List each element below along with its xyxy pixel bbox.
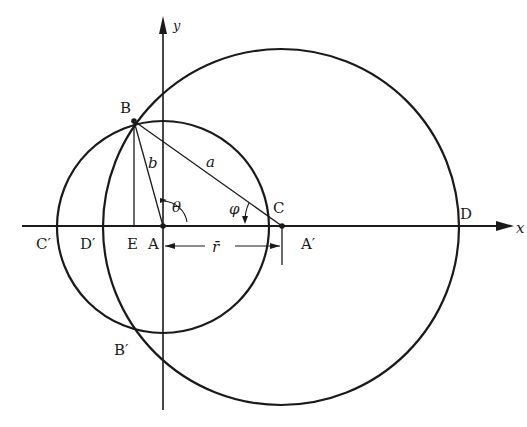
point-C-prime-label: C′ xyxy=(36,235,51,253)
point-D-label: D xyxy=(460,205,472,223)
point-B-prime-label: B′ xyxy=(114,341,129,359)
segment-a-label: a xyxy=(206,153,215,171)
segment-r-label: r̄ xyxy=(212,238,220,256)
point-E-label: E xyxy=(127,235,138,253)
segment-a xyxy=(134,121,282,226)
angle-phi-label: φ xyxy=(229,200,240,218)
point-A-label: A xyxy=(147,235,159,253)
segment-b-label: b xyxy=(148,154,158,172)
angle-phi-arrow-icon xyxy=(242,216,248,224)
angle-theta-label: θ xyxy=(172,198,181,216)
y-axis xyxy=(159,16,167,410)
segment-b xyxy=(134,121,163,226)
y-axis-arrow-icon xyxy=(159,16,167,34)
x-axis-arrow-icon xyxy=(496,221,514,231)
diagram-canvas: x y r̄ θ φ B b a C D C′ D′ E A A′ B′ xyxy=(0,0,527,427)
point-A-prime-label: A′ xyxy=(300,235,316,253)
r-dimension xyxy=(165,243,280,249)
point-B xyxy=(131,118,137,124)
point-D-prime-label: D′ xyxy=(80,235,96,253)
point-C-label: C xyxy=(273,199,284,217)
point-A xyxy=(160,223,166,229)
point-B-label: B xyxy=(120,99,131,117)
point-C xyxy=(279,223,285,229)
x-axis-label: x xyxy=(516,219,525,237)
y-axis-label: y xyxy=(172,18,181,33)
